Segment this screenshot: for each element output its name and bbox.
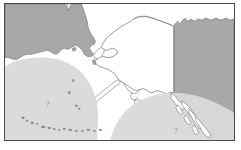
west-question-marker: ? [46, 101, 50, 109]
map-frame: ? ? [4, 3, 235, 141]
map-screenshot: ? ? [0, 0, 241, 150]
map-canvas [5, 4, 234, 140]
east-question-marker: ? [174, 128, 178, 136]
